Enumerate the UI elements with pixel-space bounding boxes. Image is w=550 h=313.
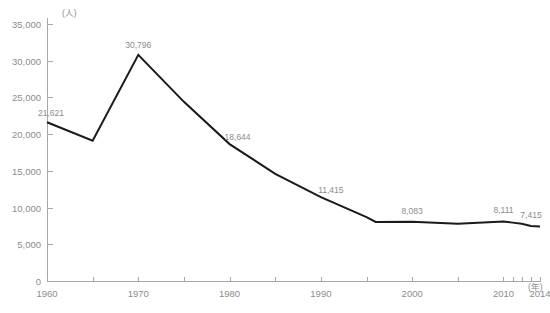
y-axis-tick-label: 0: [36, 276, 41, 287]
x-axis-tick-label: 1960: [36, 288, 57, 299]
line-chart: 05,00010,00015,00020,00025,00030,00035,0…: [0, 0, 550, 313]
y-axis-tick-label: 20,000: [12, 129, 41, 140]
data-point-label: 11,415: [318, 185, 344, 195]
data-point-label: 8,083: [402, 206, 424, 216]
y-axis-unit-label: (人): [62, 8, 77, 18]
chart-background: [0, 0, 550, 313]
data-point-label: 30,796: [125, 40, 151, 50]
y-axis-tick-label: 35,000: [12, 19, 41, 30]
data-point-label: 7,415: [520, 210, 542, 220]
x-axis-tick-label: 2000: [402, 288, 423, 299]
x-axis-tick-label: 1990: [310, 288, 331, 299]
x-axis-tick-label: 2010: [493, 288, 514, 299]
x-axis-tick-label: 1970: [128, 288, 149, 299]
y-axis-tick-label: 5,000: [17, 239, 41, 250]
x-axis-tick-label: 1980: [219, 288, 240, 299]
y-axis-tick-label: 30,000: [12, 56, 41, 67]
y-axis-tick-label: 10,000: [12, 203, 41, 214]
y-axis-tick-label: 25,000: [12, 92, 41, 103]
chart-canvas: 05,00010,00015,00020,00025,00030,00035,0…: [0, 0, 550, 313]
data-point-label: 8,111: [493, 205, 513, 215]
data-point-label: 18,644: [225, 132, 251, 142]
data-point-label: 21,621: [38, 108, 64, 118]
y-axis-tick-label: 15,000: [12, 166, 41, 177]
x-axis-unit-label: (年): [528, 282, 543, 292]
